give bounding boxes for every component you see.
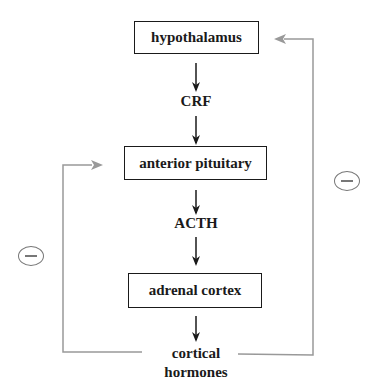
node-crf: CRF bbox=[146, 92, 246, 111]
feedback-line-pituitary bbox=[63, 165, 142, 352]
node-label: hypothalamus bbox=[151, 29, 242, 46]
minus-circle-icon bbox=[334, 171, 360, 191]
node-label-line2: hormones bbox=[136, 363, 256, 382]
node-acth: ACTH bbox=[146, 214, 246, 233]
node-label: adrenal cortex bbox=[149, 282, 242, 299]
node-anterior-pituitary: anterior pituitary bbox=[124, 146, 267, 180]
connector-lines bbox=[0, 0, 379, 385]
minus-circle-icon bbox=[18, 246, 44, 266]
node-hypothalamus: hypothalamus bbox=[134, 21, 259, 54]
node-label: anterior pituitary bbox=[139, 155, 252, 172]
node-adrenal-cortex: adrenal cortex bbox=[128, 273, 262, 308]
node-label-line1: cortical bbox=[136, 344, 256, 363]
node-cortical-hormones: cortical hormones bbox=[136, 344, 256, 382]
